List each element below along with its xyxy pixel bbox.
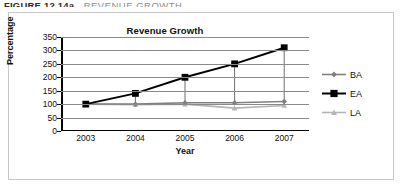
x-axis-title: Year bbox=[61, 146, 309, 156]
y-axis-tick bbox=[57, 37, 61, 38]
legend-item-la[interactable]: LA bbox=[321, 103, 385, 122]
y-axis-tick bbox=[57, 50, 61, 51]
gridline bbox=[61, 50, 309, 51]
y-axis-tick bbox=[57, 64, 61, 65]
figure-title: REVENUE GROWTH bbox=[84, 0, 183, 7]
y-axis-tick-label: 150 bbox=[27, 86, 57, 95]
y-axis-tick bbox=[57, 91, 61, 92]
gridline bbox=[61, 37, 309, 38]
y-axis-tick bbox=[57, 77, 61, 78]
legend-swatch bbox=[321, 65, 347, 84]
legend-label: LA bbox=[350, 108, 361, 117]
plot-area bbox=[61, 37, 309, 131]
x-axis-tick-label: 2007 bbox=[264, 134, 304, 143]
legend-label: EA bbox=[350, 89, 362, 98]
diamond-marker-icon bbox=[331, 72, 337, 78]
legend-label: BA bbox=[350, 70, 362, 79]
y-axis-tick-label: 100 bbox=[27, 100, 57, 109]
x-axis-tick-label: 2005 bbox=[165, 134, 205, 143]
x-axis-tick-label: 2006 bbox=[215, 134, 255, 143]
gridline bbox=[61, 118, 309, 119]
x-axis-tick-labels: 20032004200520062007 bbox=[61, 134, 309, 146]
y-axis-tick-label: 250 bbox=[27, 60, 57, 69]
y-axis-tick-labels: 050100150200250300350 bbox=[23, 37, 57, 131]
y-axis-tick-label: 200 bbox=[27, 73, 57, 82]
square-marker-icon bbox=[330, 90, 337, 97]
gridline bbox=[61, 91, 309, 92]
y-axis-tick-label: 300 bbox=[27, 46, 57, 55]
y-axis-tick bbox=[57, 104, 61, 105]
figure-number: FIGURE 12.14a bbox=[4, 0, 74, 7]
y-axis-title: Percentage bbox=[5, 16, 15, 65]
gridline bbox=[61, 64, 309, 65]
figure-caption: FIGURE 12.14a REVENUE GROWTH bbox=[4, 0, 182, 7]
x-axis-tick-label: 2003 bbox=[66, 134, 106, 143]
legend-item-ea[interactable]: EA bbox=[321, 84, 385, 103]
chart-legend: BAEALA bbox=[321, 65, 385, 122]
y-axis-tick-label: 350 bbox=[27, 33, 57, 42]
y-axis-tick bbox=[57, 131, 61, 132]
y-axis-tick-label: 0 bbox=[27, 127, 57, 136]
gridline bbox=[61, 104, 309, 105]
legend-item-ba[interactable]: BA bbox=[321, 65, 385, 84]
y-axis-tick bbox=[57, 118, 61, 119]
legend-swatch bbox=[321, 84, 347, 103]
x-axis-tick-label: 2004 bbox=[115, 134, 155, 143]
chart-title: Revenue Growth bbox=[9, 25, 393, 36]
gridline bbox=[61, 77, 309, 78]
legend-swatch bbox=[321, 103, 347, 122]
y-axis-tick-label: 50 bbox=[27, 113, 57, 122]
chart-frame: Revenue Growth Percentage 05010015020025… bbox=[8, 12, 394, 180]
